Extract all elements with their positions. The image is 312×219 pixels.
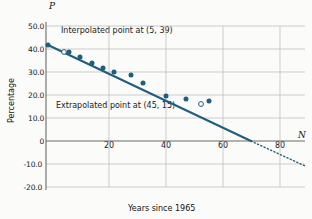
gridlines	[46, 26, 305, 187]
data-point	[129, 73, 134, 78]
chart-figure: 50.0 40.0 30.0 20.0 10.0 0 -10.0 -20.0 2…	[0, 0, 312, 219]
data-point-markers	[46, 43, 212, 104]
extrapolation-dotted-line	[251, 141, 305, 166]
data-point	[141, 81, 146, 86]
data-point	[112, 70, 117, 75]
data-point	[46, 43, 51, 48]
data-point	[90, 61, 95, 66]
highlighted-open-markers	[62, 50, 204, 107]
data-point	[207, 99, 212, 104]
interpolated-point-marker	[62, 50, 67, 55]
data-point	[101, 66, 106, 71]
data-point	[184, 97, 189, 102]
data-point	[78, 55, 83, 60]
data-point	[164, 94, 169, 99]
plot-canvas	[0, 0, 312, 219]
data-point	[67, 50, 72, 55]
trend-line	[48, 45, 251, 141]
extrapolated-point-marker	[199, 102, 204, 107]
